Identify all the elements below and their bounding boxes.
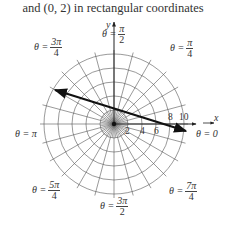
grid-spoke [95, 53, 114, 125]
grid-spoke [77, 60, 114, 124]
grid-spoke [114, 124, 133, 196]
grid-spoke [43, 124, 115, 143]
angle-label-0: θ = 0 [196, 129, 218, 139]
angle-label-pi-over-2: θ =π2 [102, 24, 125, 45]
radial-tick-6: 6 [154, 127, 159, 137]
angle-label-3pi-over-4: θ =3π4 [34, 37, 62, 58]
angle-label-3pi-over-2: θ =3π2 [100, 196, 128, 217]
radial-tick-4: 4 [140, 127, 145, 137]
angle-label-5pi-over-4: θ =5π4 [32, 180, 60, 201]
radial-tick-2: 2 [125, 127, 130, 137]
x-axis-label: x [214, 113, 218, 123]
grid-spoke [114, 124, 151, 188]
angle-label-7pi-over-4: θ =7π4 [169, 181, 197, 202]
radial-tick-8: 8 [168, 113, 173, 123]
grid-spoke [43, 105, 115, 124]
radial-tick-10: 10 [179, 113, 189, 123]
origin-dot [112, 122, 116, 126]
grid-spoke [50, 124, 114, 161]
grid-spoke [95, 124, 114, 196]
angle-label-pi-over-4: θ =π4 [170, 38, 193, 59]
grid-spoke [114, 124, 178, 161]
grid-spoke [77, 124, 114, 188]
grid-spoke [62, 124, 114, 176]
grid-spoke [62, 72, 114, 124]
angle-label-pi: θ = π [15, 129, 37, 139]
grid-spoke [114, 105, 186, 124]
